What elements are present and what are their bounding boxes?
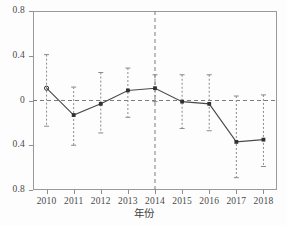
y-axis-tick-label: 0.4 [0, 50, 25, 60]
y-axis-tick-label: 0.4 [0, 139, 25, 149]
x-axis-title: 年份 [0, 205, 287, 220]
x-axis-tick-mark [101, 190, 102, 194]
y-axis-tick-mark [29, 56, 33, 57]
chart-container: 0.80.400.40.8 20102011201220132014201520… [0, 0, 287, 225]
y-axis-tick-label: 0 [0, 95, 25, 105]
plot-frame [33, 11, 277, 190]
x-axis-tick-mark [263, 190, 264, 194]
x-axis-tick-mark [128, 190, 129, 194]
y-axis-tick-mark [29, 11, 33, 12]
y-axis-tick-mark [29, 190, 33, 191]
x-axis-tick-mark [209, 190, 210, 194]
x-axis-tick-mark [47, 190, 48, 194]
y-axis-tick-mark [29, 145, 33, 146]
x-axis-tick-mark [236, 190, 237, 194]
x-axis-tick-mark [74, 190, 75, 194]
y-axis-tick-label: 0.8 [0, 184, 25, 194]
y-axis-tick-label: 0.8 [0, 5, 25, 15]
y-axis-tick-mark [29, 101, 33, 102]
x-axis-tick-mark [155, 190, 156, 194]
x-axis-tick-mark [182, 190, 183, 194]
